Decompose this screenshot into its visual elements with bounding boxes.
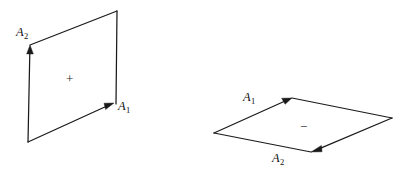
label-a1-left-panel-subscript: 1 bbox=[126, 105, 130, 115]
vector-a1-arrowhead-right-panel bbox=[282, 98, 292, 104]
edge-top-left-panel bbox=[30, 11, 117, 45]
vector-a2-arrowhead-right-panel bbox=[311, 145, 322, 152]
label-a1-left-panel-base: A bbox=[118, 99, 126, 113]
vector-a2-arrowhead-left-panel bbox=[27, 45, 34, 54]
vector-a1-arrowhead-left-panel bbox=[104, 103, 114, 110]
label-a1-right-panel-subscript: 1 bbox=[251, 96, 255, 106]
label-a1-right-panel: A1 bbox=[243, 91, 255, 104]
label-a2-right-panel-subscript: 2 bbox=[280, 157, 284, 167]
vector-a2-shaft-right-panel bbox=[320, 118, 393, 149]
label-a2-right-panel-base: A bbox=[272, 151, 280, 165]
label-a2-left-panel-subscript: 2 bbox=[24, 31, 28, 41]
label-a2-right-panel: A2 bbox=[272, 152, 284, 165]
figure-canvas: A1 A2 + A1 A2 − bbox=[0, 0, 418, 178]
label-a2-left-panel: A2 bbox=[16, 26, 28, 39]
vector-a1-shaft-right-panel bbox=[214, 102, 284, 134]
label-a1-right-panel-base: A bbox=[243, 90, 251, 104]
vector-a1-shaft-left-panel bbox=[28, 106, 107, 142]
edge-right-left-panel bbox=[116, 11, 117, 104]
oriented-parallelograms-svg bbox=[0, 0, 418, 178]
label-a2-left-panel-base: A bbox=[16, 25, 24, 39]
edge-bottom-left-right-panel bbox=[214, 133, 311, 152]
label-a1-left-panel: A1 bbox=[118, 100, 130, 113]
orientation-sign-positive: + bbox=[66, 72, 73, 85]
orientation-sign-negative: − bbox=[300, 120, 307, 133]
vector-a2-shaft-left-panel bbox=[28, 53, 30, 142]
edge-top-right-right-panel bbox=[292, 98, 392, 118]
